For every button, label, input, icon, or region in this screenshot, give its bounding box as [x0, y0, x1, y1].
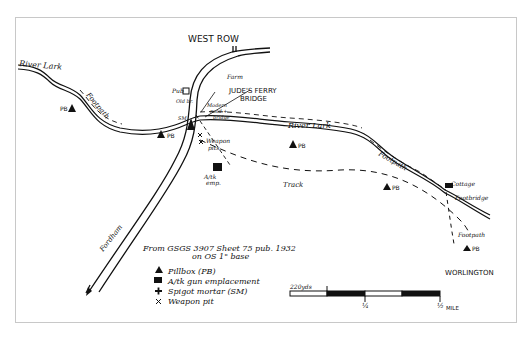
map-drawing: WEST ROW Farm JUDE'S FERRY BRIDGE Pub Ol… [0, 0, 531, 340]
scale-mid-label: ¼ [362, 302, 369, 310]
anti-tank-square-icon [213, 163, 222, 171]
label-footpath-south: Footpath [457, 231, 485, 239]
label-cottage: Cottage [451, 180, 475, 188]
label-sm: SM [178, 115, 187, 121]
label-footpath-east: Footpath [376, 149, 408, 172]
legend-item-pillbox: Pillbox (PB) [167, 267, 216, 276]
track [200, 140, 470, 235]
label-jude-ferry-2: BRIDGE [240, 95, 267, 103]
label-weapon-pits-2: pits [208, 144, 219, 152]
pillbox-triangle-icon [383, 183, 391, 190]
scale-end-label: ½ [437, 302, 444, 310]
pillbox-triangle-icon [157, 130, 165, 138]
pb-label: PB [472, 245, 480, 252]
label-jude-ferry-1: JUDE'S FERRY [228, 87, 277, 95]
label-track: Track [283, 181, 303, 189]
scale-start-label: 220yds [289, 283, 312, 291]
pillbox-triangle-icon [68, 104, 76, 112]
label-old-bridge: Old br. [176, 98, 194, 104]
label-worlington: WORLINGTON [445, 269, 494, 277]
legend-item-weapon-pit: Weapon pit [168, 297, 214, 306]
label-farm: Farm [226, 73, 243, 80]
label-fordham: Fordham [98, 223, 125, 254]
legend-item-spigot: Spigot mortar (SM) [168, 287, 247, 296]
pillbox-triangle-icon [289, 140, 297, 148]
label-modern-3: bridge [213, 114, 230, 121]
pb-label: PB [60, 105, 68, 112]
spigot-mortar-cross-icon [155, 288, 162, 295]
pub-building-icon [183, 88, 189, 94]
label-west-row: WEST ROW [188, 34, 239, 44]
anti-tank-square-icon [154, 277, 162, 283]
legend: Pillbox (PB) A/tk gun emplacement Spigot… [154, 266, 261, 306]
pillbox-markers [68, 104, 471, 251]
weapon-pit-markers [198, 133, 203, 144]
scale-bar [290, 286, 440, 302]
label-pub: Pub [171, 87, 184, 94]
pillbox-triangle-icon [155, 266, 163, 273]
label-at-emp-2: emp. [206, 179, 221, 187]
footpath-south [446, 192, 454, 244]
source-line-2: on OS 1" base [192, 252, 249, 261]
weapon-pit-x-icon [156, 299, 161, 304]
scale-unit-label: MILE [446, 305, 459, 311]
legend-item-atk: A/tk gun emplacement [167, 277, 261, 286]
label-river-lark-east: River Lark [287, 121, 331, 130]
pb-label: PB [167, 132, 175, 139]
pillbox-triangle-icon [463, 245, 471, 251]
pb-label: PB [298, 142, 306, 149]
pb-label: PB [392, 184, 400, 191]
label-footbridge: Footbridge [454, 194, 489, 202]
